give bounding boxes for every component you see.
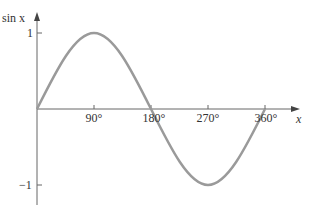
y-axis-arrow-icon [34, 12, 40, 21]
y-tick-label-1: 1 [27, 26, 33, 40]
x-tick-label-360: 360° [255, 111, 278, 125]
x-tick-label-180: 180° [143, 111, 166, 125]
x-tick-label-270: 270° [197, 111, 220, 125]
sine-chart: sin x 1 −1 90° 180° 270° 360° x [0, 0, 316, 209]
y-axis-label: sin x [2, 11, 25, 25]
y-tick-label-neg1: −1 [19, 178, 32, 192]
x-axis-label: x [295, 112, 302, 126]
x-tick-label-90: 90° [86, 111, 103, 125]
